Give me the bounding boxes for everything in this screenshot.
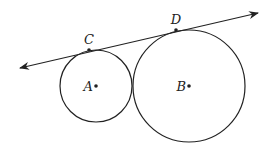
- center-point-b: [187, 84, 191, 88]
- label-d: D: [170, 12, 182, 27]
- tangent-point-d: [174, 28, 178, 32]
- label-a: A: [83, 79, 93, 94]
- center-point-a: [94, 84, 98, 88]
- geometry-diagram: A B C D: [0, 0, 261, 150]
- tangent-point-c: [87, 48, 91, 52]
- label-b: B: [175, 79, 186, 94]
- label-c: C: [84, 32, 94, 47]
